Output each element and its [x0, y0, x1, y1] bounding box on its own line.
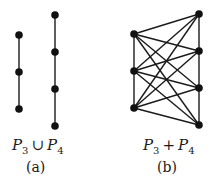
label-b-right-sub: 4 — [188, 145, 194, 156]
caption-a: (a) — [26, 159, 45, 175]
label-b: P3+P4 — [143, 136, 195, 156]
vertex — [15, 105, 23, 113]
label-a-right: P — [47, 136, 57, 154]
vertex — [130, 104, 138, 112]
label-b-left: P — [143, 136, 153, 154]
label-b-left-sub: 3 — [153, 145, 159, 156]
vertex — [195, 121, 203, 129]
vertex — [51, 122, 59, 130]
union-operator: ∪ — [31, 136, 44, 154]
vertex — [51, 85, 59, 93]
label-a-left: P — [12, 136, 22, 154]
vertex — [130, 30, 138, 38]
label-a: P3∪P4 — [12, 136, 64, 156]
vertex — [15, 68, 23, 76]
label-a-right-sub: 4 — [57, 145, 63, 156]
vertex — [195, 47, 203, 55]
vertex — [130, 67, 138, 75]
caption-b: (b) — [157, 159, 177, 175]
vertex — [195, 10, 203, 18]
vertex — [51, 48, 59, 56]
label-a-left-sub: 3 — [22, 145, 28, 156]
vertex — [51, 11, 59, 19]
graph-canvas — [0, 0, 210, 184]
graph-p3-union-p4 — [15, 11, 59, 130]
edge — [134, 14, 199, 34]
edge — [134, 88, 199, 108]
label-b-right: P — [178, 136, 188, 154]
vertex — [15, 31, 23, 39]
vertex — [195, 84, 203, 92]
edge — [134, 14, 199, 108]
join-operator: + — [162, 136, 175, 154]
graph-p3-join-p4 — [130, 10, 203, 129]
